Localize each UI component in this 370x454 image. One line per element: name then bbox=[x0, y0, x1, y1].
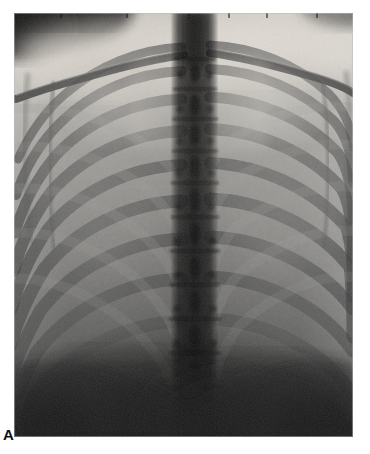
radiograph-canvas bbox=[14, 13, 353, 437]
film-grain-coarse bbox=[14, 13, 353, 437]
chest-radiograph-image bbox=[14, 13, 353, 437]
panel-label-a: A bbox=[3, 427, 14, 443]
figure-panel: A bbox=[0, 0, 370, 454]
